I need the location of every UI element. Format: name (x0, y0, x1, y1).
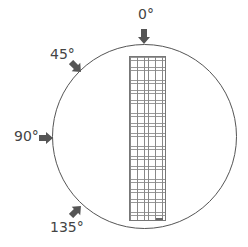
scale-bar (156, 218, 163, 220)
arrow-right-icon (39, 132, 53, 144)
angle-label-90: 90° (14, 129, 39, 143)
angle-label-135: 135° (50, 220, 84, 234)
angle-label-0: 0° (138, 7, 154, 21)
arrow-down-icon (138, 29, 150, 44)
arrow-down-right-icon (69, 60, 83, 74)
arrow-up-right-icon (69, 204, 83, 218)
sample-grid (129, 56, 166, 221)
angle-label-45: 45° (50, 47, 75, 61)
